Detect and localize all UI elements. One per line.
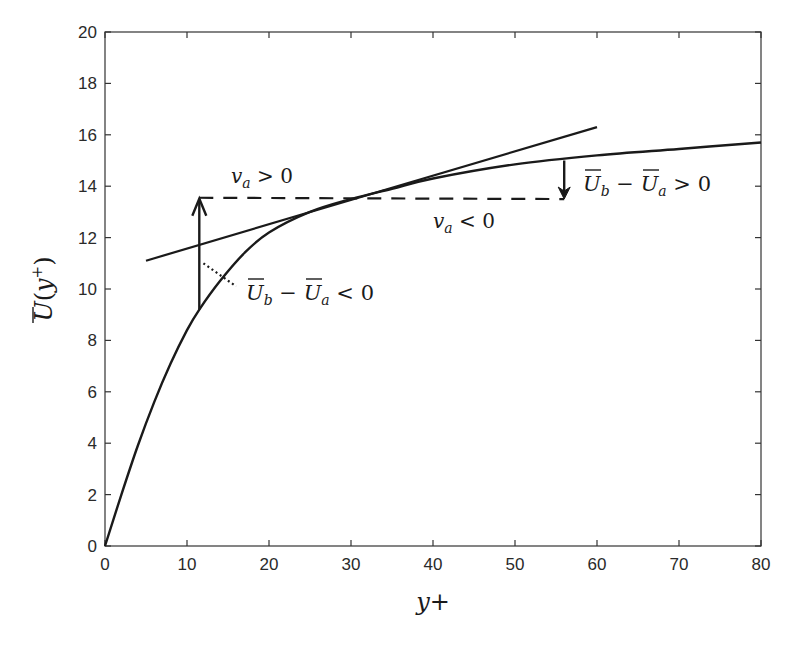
x-tick-label: 70 [670, 555, 689, 574]
x-tick-label: 10 [178, 555, 197, 574]
y-tick-label: 0 [88, 537, 97, 556]
y-tick-label: 10 [78, 280, 97, 299]
x-tick-label: 40 [424, 555, 443, 574]
tangent-line [146, 127, 597, 261]
y-axis-label: U(y+) [28, 256, 58, 323]
x-axis-label: y+ [415, 588, 450, 616]
annotation-du-positive: Ub − Ua > 0 [583, 172, 711, 199]
y-tick-label: 18 [78, 74, 97, 93]
x-tick-label: 60 [588, 555, 607, 574]
annotation-va-positive: va > 0 [231, 164, 293, 191]
x-tick-label: 50 [506, 555, 525, 574]
x-axis: 01020304050607080 [100, 32, 770, 574]
annotation-va-negative: va < 0 [433, 209, 495, 236]
chart-svg: 02468101214161820 01020304050607080 va >… [0, 0, 799, 645]
y-tick-label: 6 [88, 383, 97, 402]
x-tick-label: 30 [342, 555, 361, 574]
y-axis: 02468101214161820 [78, 23, 761, 556]
x-tick-label: 80 [752, 555, 771, 574]
dashed-reference-line [199, 198, 564, 199]
annotations: va > 0 va < 0 Ub − Ua > 0 Ub − Ua < 0 [231, 164, 711, 308]
y-tick-label: 8 [88, 331, 97, 350]
y-tick-label: 16 [78, 126, 97, 145]
y-tick-label: 20 [78, 23, 97, 42]
y-tick-label: 4 [88, 434, 97, 453]
velocity-profile-curve [105, 143, 761, 546]
y-tick-label: 2 [88, 486, 97, 505]
x-tick-label: 0 [100, 555, 109, 574]
annotation-du-negative: Ub − Ua < 0 [246, 281, 374, 308]
x-tick-label: 20 [260, 555, 279, 574]
y-tick-label: 14 [78, 177, 97, 196]
y-tick-label: 12 [78, 229, 97, 248]
plot-frame [105, 32, 761, 546]
